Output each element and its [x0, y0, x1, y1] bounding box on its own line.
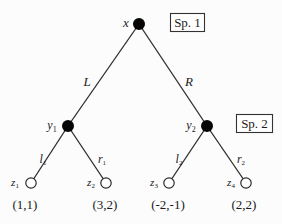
action-label-R: R: [184, 74, 193, 89]
node-label-y2: y2: [185, 118, 195, 134]
edge-l1: [31, 126, 68, 183]
action-label-r1: r1: [98, 152, 107, 167]
payoff-z2: (3,2): [93, 197, 118, 212]
action-label-l2: l2: [176, 152, 183, 167]
decision-node-y2: [201, 120, 213, 132]
node-label-z2: z2: [86, 176, 95, 190]
node-label-z1: z1: [10, 176, 19, 190]
terminal-node-z4: [241, 178, 251, 188]
player-2-label: Sp. 2: [241, 116, 268, 131]
edge-L: [68, 24, 139, 126]
node-label-y1: y1: [46, 118, 56, 134]
node-label-z3: z3: [149, 176, 158, 190]
player-2-label-box: Sp. 2: [237, 115, 273, 133]
game-tree-canvas: Sp. 1 Sp. 2 x y1 y2 z1 z2 z3 z4 L R l1 r…: [0, 0, 282, 224]
edge-R: [139, 24, 207, 126]
terminal-node-z1: [26, 178, 36, 188]
terminal-node-z2: [101, 178, 111, 188]
game-tree-diagram: Sp. 1 Sp. 2 x y1 y2 z1 z2 z3 z4 L R l1 r…: [0, 0, 282, 224]
player-1-label: Sp. 1: [174, 15, 201, 30]
decision-node-x: [133, 18, 145, 30]
node-label-z4: z4: [226, 176, 235, 190]
action-label-L: L: [82, 74, 90, 89]
payoff-z4: (2,2): [232, 197, 257, 212]
payoff-z3: (-2,-1): [151, 197, 185, 212]
action-label-l1: l1: [40, 152, 47, 167]
decision-node-y1: [62, 120, 74, 132]
node-label-x: x: [122, 15, 129, 30]
player-1-label-box: Sp. 1: [171, 14, 205, 32]
payoff-z1: (1,1): [13, 197, 38, 212]
terminal-node-z3: [164, 178, 174, 188]
action-label-r2: r2: [237, 152, 246, 167]
